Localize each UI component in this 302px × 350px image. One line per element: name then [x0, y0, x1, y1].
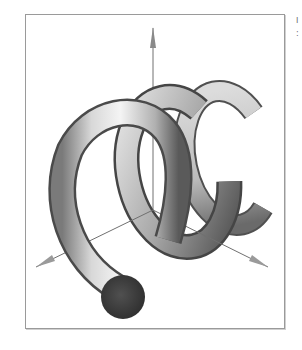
edge-fragment-2: :: [296, 30, 302, 38]
z-axis-arrowhead-icon: [150, 27, 156, 48]
x-axis-arrowhead-icon: [36, 255, 55, 267]
edge-fragment-1: I: [296, 17, 302, 25]
spring-3d-figure: [0, 0, 302, 350]
spring-end-cap: [101, 275, 145, 319]
y-axis-arrowhead-icon: [249, 255, 268, 267]
